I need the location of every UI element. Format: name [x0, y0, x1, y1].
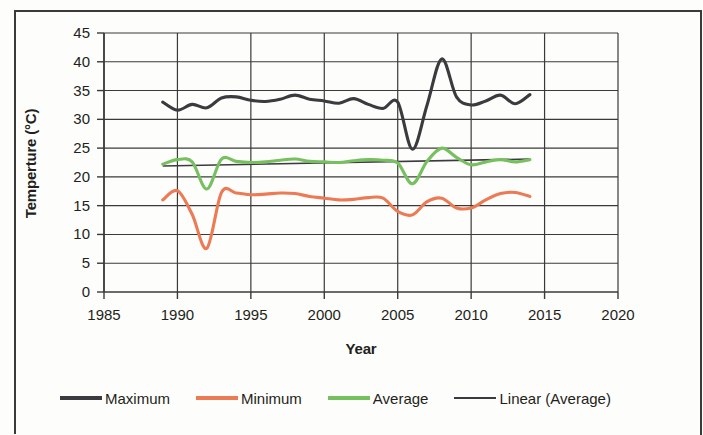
series-line-average	[163, 148, 530, 189]
y-axis-tick-label: 15	[54, 198, 90, 213]
legend-label: Linear (Average)	[499, 390, 610, 407]
x-axis-tick-label: 1985	[64, 306, 144, 323]
y-axis-tick-label: 40	[54, 54, 90, 69]
legend-label: Average	[373, 390, 429, 407]
legend-label: Minimum	[241, 390, 302, 407]
legend-swatch-icon	[196, 396, 238, 400]
legend-swatch-icon	[60, 396, 102, 400]
line-chart: 454035302520151050 198519901995200020052…	[0, 0, 703, 435]
x-axis-tick-label: 2020	[578, 306, 658, 323]
x-axis-tick-labels: 19851990199520002005201020152020	[0, 300, 703, 324]
chart-legend: MaximumMinimumAverageLinear (Average)	[60, 386, 660, 410]
legend-item-linear-average[interactable]: Linear (Average)	[454, 390, 610, 407]
y-axis-tick-label: 25	[54, 140, 90, 155]
x-axis-tick-label: 2000	[284, 306, 364, 323]
y-axis-title: Temperture (°C)	[22, 64, 39, 264]
legend-item-minimum[interactable]: Minimum	[196, 390, 302, 407]
x-axis-tick-label: 1995	[211, 306, 291, 323]
x-axis-title: Year	[104, 340, 618, 357]
legend-label: Maximum	[105, 390, 170, 407]
y-axis-tick-label: 0	[54, 284, 90, 299]
x-axis-tick-label: 1990	[137, 306, 217, 323]
y-axis-tick-label: 5	[54, 255, 90, 270]
legend-swatch-icon	[328, 396, 370, 400]
y-axis-tick-label: 10	[54, 226, 90, 241]
x-axis-tick-label: 2010	[431, 306, 511, 323]
y-axis-tick-label: 20	[54, 169, 90, 184]
plot-area	[0, 0, 703, 435]
legend-item-average[interactable]: Average	[328, 390, 429, 407]
x-axis-tick-label: 2015	[505, 306, 585, 323]
series-line-maximum	[163, 59, 530, 149]
y-axis-tick-label: 35	[54, 83, 90, 98]
x-axis-tick-label: 2005	[358, 306, 438, 323]
y-axis-tick-label: 30	[54, 111, 90, 126]
y-axis-tick-label: 45	[54, 25, 90, 40]
legend-item-maximum[interactable]: Maximum	[60, 390, 170, 407]
legend-swatch-icon	[454, 397, 496, 399]
series-line-minimum	[163, 188, 530, 248]
